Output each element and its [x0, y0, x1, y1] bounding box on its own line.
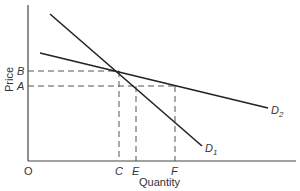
tick-label-e: E	[132, 165, 140, 177]
demand-curve-d1	[50, 14, 202, 146]
demand-diagram: Price Quantity O B A C E F D1 D2	[0, 0, 300, 191]
y-axis-label: Price	[3, 67, 15, 92]
demand-curve-d2	[40, 53, 268, 108]
tick-label-c: C	[115, 165, 123, 177]
curve-label-d2: D2	[271, 104, 284, 119]
origin-label: O	[24, 165, 33, 177]
x-axis-label: Quantity	[139, 176, 180, 188]
tick-label-a: A	[16, 80, 24, 92]
tick-label-b: B	[17, 65, 24, 77]
curve-label-d1: D1	[205, 142, 217, 157]
